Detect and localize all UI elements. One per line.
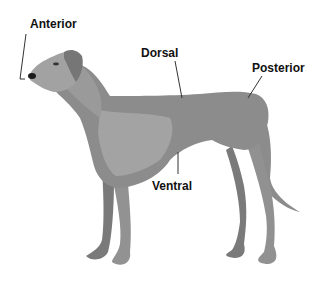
dorsal-leader-line [175, 61, 182, 98]
label-dorsal: Dorsal [141, 47, 178, 59]
dog-illustration [0, 0, 321, 284]
dog-hind-leg-far [226, 146, 246, 258]
dog-nose [28, 73, 36, 79]
label-posterior: Posterior [252, 62, 305, 74]
dog-anatomy-diagram: Anterior Dorsal Posterior Ventral [0, 0, 321, 284]
label-anterior: Anterior [30, 18, 77, 30]
dog-eye [53, 63, 59, 66]
label-ventral: Ventral [152, 180, 192, 192]
anterior-bracket-line [20, 34, 26, 79]
dog-front-leg-near [112, 176, 131, 265]
